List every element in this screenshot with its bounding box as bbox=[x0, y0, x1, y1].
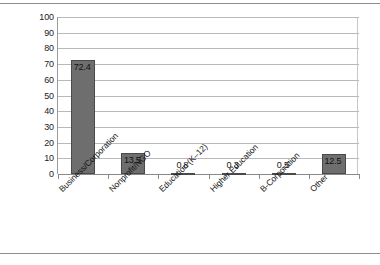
x-axis-tick bbox=[309, 174, 310, 179]
y-axis-tick-label: 70 bbox=[28, 60, 54, 69]
bar-value-label: 13.5 bbox=[112, 156, 152, 165]
bar-value-label: 0.8 bbox=[162, 161, 202, 170]
x-axis-category-label: Other bbox=[308, 172, 330, 194]
bar-value-label: 12.5 bbox=[313, 157, 353, 166]
y-axis-tick-label: 80 bbox=[28, 44, 54, 53]
bar-value-label: 0.5 bbox=[263, 161, 303, 170]
y-axis-tick-label: 0 bbox=[28, 170, 54, 179]
gridline bbox=[58, 33, 359, 34]
x-axis-tick bbox=[259, 174, 260, 179]
gridline bbox=[58, 96, 359, 97]
gridline bbox=[58, 127, 359, 128]
x-axis-tick bbox=[58, 174, 59, 179]
bar-chart-figure: 1009080706050403020100 Business/Corporat… bbox=[0, 0, 380, 265]
gridline bbox=[58, 48, 359, 49]
y-axis-tick-label: 30 bbox=[28, 123, 54, 132]
x-axis-tick bbox=[359, 174, 360, 179]
y-axis-tick-label: 100 bbox=[28, 13, 54, 22]
page-rule-bottom bbox=[0, 253, 380, 254]
y-axis-tick-label: 40 bbox=[28, 107, 54, 116]
gridline bbox=[58, 64, 359, 65]
y-axis-tick-label: 60 bbox=[28, 76, 54, 85]
x-axis-tick bbox=[158, 174, 159, 179]
y-axis-tick-label: 20 bbox=[28, 139, 54, 148]
page-rule-top bbox=[0, 3, 380, 4]
bar-value-label: 0.3 bbox=[213, 161, 253, 170]
x-axis-tick bbox=[108, 174, 109, 179]
gridline bbox=[58, 80, 359, 81]
y-axis-tick-label: 50 bbox=[28, 92, 54, 101]
y-axis-tick-label: 90 bbox=[28, 29, 54, 38]
bar-value-label: 72.4 bbox=[62, 63, 102, 72]
x-axis-tick bbox=[209, 174, 210, 179]
y-axis-tick-label: 10 bbox=[28, 154, 54, 163]
gridline bbox=[58, 111, 359, 112]
gridline bbox=[58, 17, 359, 18]
